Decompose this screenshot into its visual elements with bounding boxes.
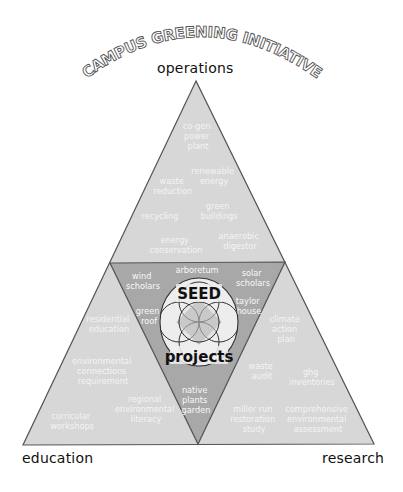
label-environmental-connections: environmental connections requirement	[72, 356, 134, 386]
label-taylor-house: taylor house	[236, 296, 262, 316]
corner-label-research: research	[322, 450, 384, 466]
corner-label-education: education	[22, 450, 93, 466]
label-green-buildings: green buildings	[200, 201, 237, 221]
seed-emblem: SEED projects	[159, 278, 239, 366]
label-recycling: recycling	[141, 211, 178, 221]
seed-subtitle: projects	[165, 348, 234, 366]
corner-label-operations: operations	[157, 60, 234, 76]
label-waste-audit: waste audit	[249, 361, 276, 381]
label-anaerobic-digestor: anaerobic digestor	[218, 231, 261, 251]
label-native-plants-garden: native plants garden	[182, 385, 211, 415]
label-residential-education: residential education	[86, 314, 132, 334]
label-curricular-workshops: curricular workshops	[50, 411, 94, 431]
label-arboretum: arboretum	[175, 265, 218, 275]
seed-title: SEED	[177, 285, 221, 303]
label-comprehensive-assessment: comprehensive environmental assessment	[285, 404, 350, 434]
